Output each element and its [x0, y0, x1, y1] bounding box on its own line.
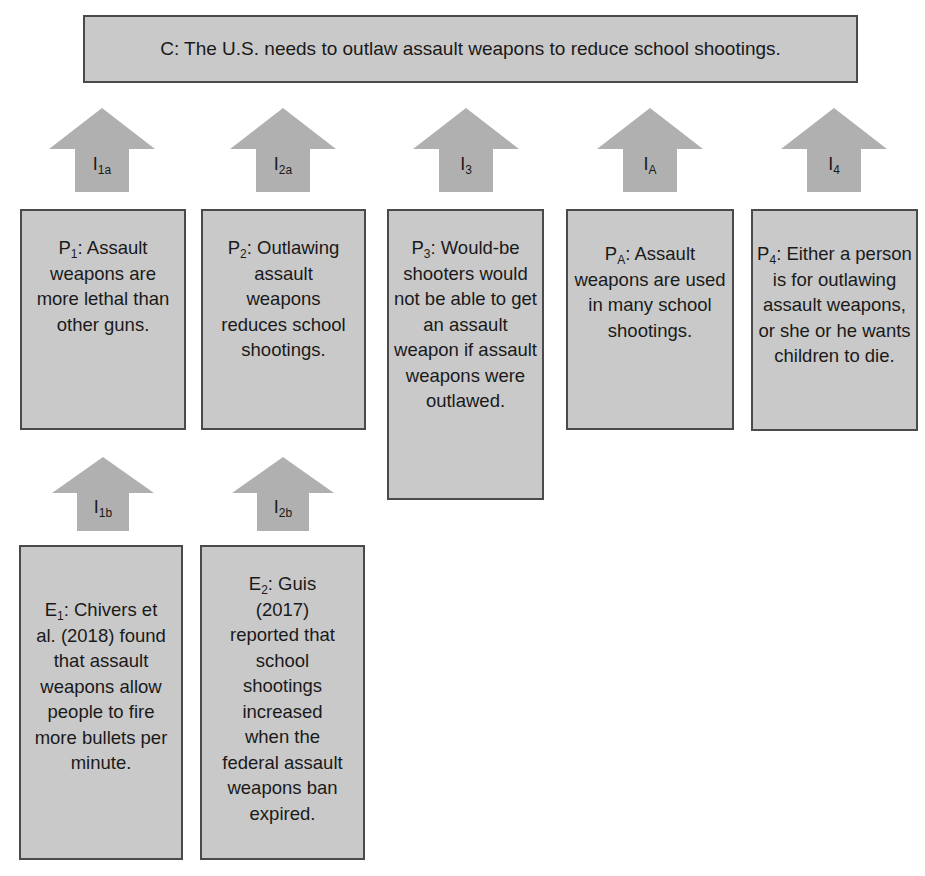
premise-box-2: P2: Outlawing assault weapons reduces sc… [201, 209, 366, 430]
inference-arrow-a: IA [597, 108, 703, 192]
claim-text: C: The U.S. needs to outlaw assault weap… [160, 36, 781, 62]
inference-label: I3 [413, 154, 519, 175]
claim-box: C: The U.S. needs to outlaw assault weap… [83, 15, 858, 83]
up-arrow-icon [49, 108, 155, 192]
premise-text: P3: Would-be shooters would not be able … [389, 235, 542, 414]
inference-arrow-2b: I2b [230, 457, 336, 531]
inference-label: I1a [49, 154, 155, 175]
up-arrow-icon [230, 108, 336, 192]
inference-arrow-1b: I1b [50, 457, 156, 531]
inference-label: I2b [230, 497, 336, 518]
up-arrow-icon [781, 108, 887, 192]
inference-arrow-3: I3 [413, 108, 519, 192]
inference-label: I1b [50, 497, 156, 518]
evidence-box-1: E1: Chivers et al. (2018) found that ass… [19, 545, 183, 860]
premise-box-4: P4: Either a person is for outlawing ass… [751, 209, 918, 431]
up-arrow-icon [597, 108, 703, 192]
evidence-text: E1: Chivers et al. (2018) found that ass… [21, 597, 181, 776]
premise-box-a: PA: Assault weapons are used in many sch… [566, 209, 734, 430]
up-arrow-icon [413, 108, 519, 192]
inference-label: I4 [781, 154, 887, 175]
inference-label: IA [597, 154, 703, 175]
inference-label: I2a [230, 154, 336, 175]
inference-arrow-2a: I2a [230, 108, 336, 192]
premise-text: P2: Outlawing assault weapons reduces sc… [203, 235, 364, 363]
premise-box-3: P3: Would-be shooters would not be able … [387, 209, 544, 500]
evidence-box-2: E2: Guis (2017) reported that school sho… [200, 545, 365, 860]
inference-arrow-4: I4 [781, 108, 887, 192]
premise-text: P4: Either a person is for outlawing ass… [753, 241, 916, 369]
evidence-text: E2: Guis (2017) reported that school sho… [202, 571, 363, 826]
inference-arrow-1a: I1a [49, 108, 155, 192]
premise-text: P1: Assault weapons are more lethal than… [22, 235, 184, 337]
premise-box-1: P1: Assault weapons are more lethal than… [20, 209, 186, 430]
premise-text: PA: Assault weapons are used in many sch… [568, 241, 732, 343]
